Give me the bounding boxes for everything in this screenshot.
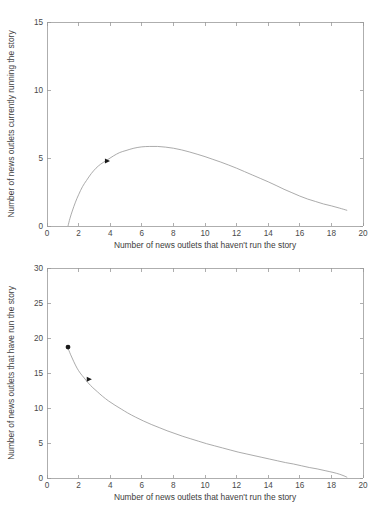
y-axis-title: Number of news outlets that have run the…	[6, 285, 16, 459]
x-tick-label: 12	[232, 481, 242, 490]
x-axis-title: Number of news outlets that haven't run …	[114, 492, 297, 502]
y-tick-label: 15	[34, 369, 44, 378]
x-tick-label: 12	[232, 229, 242, 238]
plot-top-canvas: 02468101214161820051015Number of news ou…	[0, 0, 386, 260]
y-tick-label: 30	[34, 264, 44, 273]
y-tick-label: 0	[38, 222, 43, 231]
x-tick-label: 18	[327, 229, 337, 238]
figure-container: 02468101214161820051015Number of news ou…	[0, 0, 386, 519]
x-tick-label: 0	[45, 229, 50, 238]
data-curve	[68, 146, 347, 226]
x-tick-label: 20	[358, 481, 368, 490]
arrow-marker	[105, 158, 110, 163]
y-tick-label: 20	[34, 334, 44, 343]
x-tick-label: 2	[76, 229, 81, 238]
plot-panel-top: 02468101214161820051015Number of news ou…	[0, 0, 386, 260]
x-tick-label: 14	[264, 481, 274, 490]
x-axis-title: Number of news outlets that haven't run …	[114, 240, 297, 250]
x-tick-label: 4	[108, 229, 113, 238]
x-tick-label: 8	[171, 229, 176, 238]
x-tick-label: 2	[76, 481, 81, 490]
x-tick-label: 18	[327, 481, 337, 490]
plot-bottom-canvas: 02468101214161820051015202530Number of n…	[0, 255, 386, 519]
data-curve	[68, 347, 348, 477]
arrow-marker	[87, 377, 92, 382]
x-tick-label: 10	[200, 229, 210, 238]
x-tick-label: 20	[358, 229, 368, 238]
x-tick-label: 0	[45, 481, 50, 490]
plot-box	[47, 268, 363, 478]
y-axis-title: Number of news outlets currently running…	[6, 30, 16, 218]
x-tick-label: 16	[295, 229, 305, 238]
x-tick-label: 6	[140, 481, 145, 490]
x-tick-label: 10	[200, 481, 210, 490]
x-tick-label: 4	[108, 481, 113, 490]
x-tick-label: 6	[140, 229, 145, 238]
y-tick-label: 10	[34, 86, 44, 95]
y-tick-label: 10	[34, 404, 44, 413]
dot-marker	[66, 345, 71, 350]
x-tick-label: 8	[171, 481, 176, 490]
plot-box	[47, 22, 363, 226]
x-tick-label: 14	[264, 229, 274, 238]
x-tick-label: 16	[295, 481, 305, 490]
y-tick-label: 25	[34, 299, 44, 308]
y-tick-label: 5	[38, 154, 43, 163]
plot-panel-bottom: 02468101214161820051015202530Number of n…	[0, 255, 386, 519]
y-tick-label: 0	[38, 474, 43, 483]
y-tick-label: 5	[38, 439, 43, 448]
y-tick-label: 15	[34, 18, 44, 27]
